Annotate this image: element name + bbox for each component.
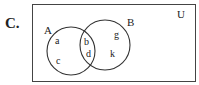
set-b-label: B bbox=[127, 16, 134, 28]
element-a: a bbox=[55, 35, 60, 46]
universe-label: U bbox=[177, 8, 185, 20]
element-g: g bbox=[114, 29, 119, 40]
element-c: c bbox=[56, 55, 61, 66]
venn-diagram: C. U A B a c b d g k bbox=[0, 0, 199, 85]
set-a-label: A bbox=[44, 24, 52, 36]
element-b: b bbox=[84, 36, 89, 47]
element-k: k bbox=[110, 48, 115, 59]
problem-label: C. bbox=[5, 15, 20, 31]
element-d: d bbox=[86, 48, 91, 59]
